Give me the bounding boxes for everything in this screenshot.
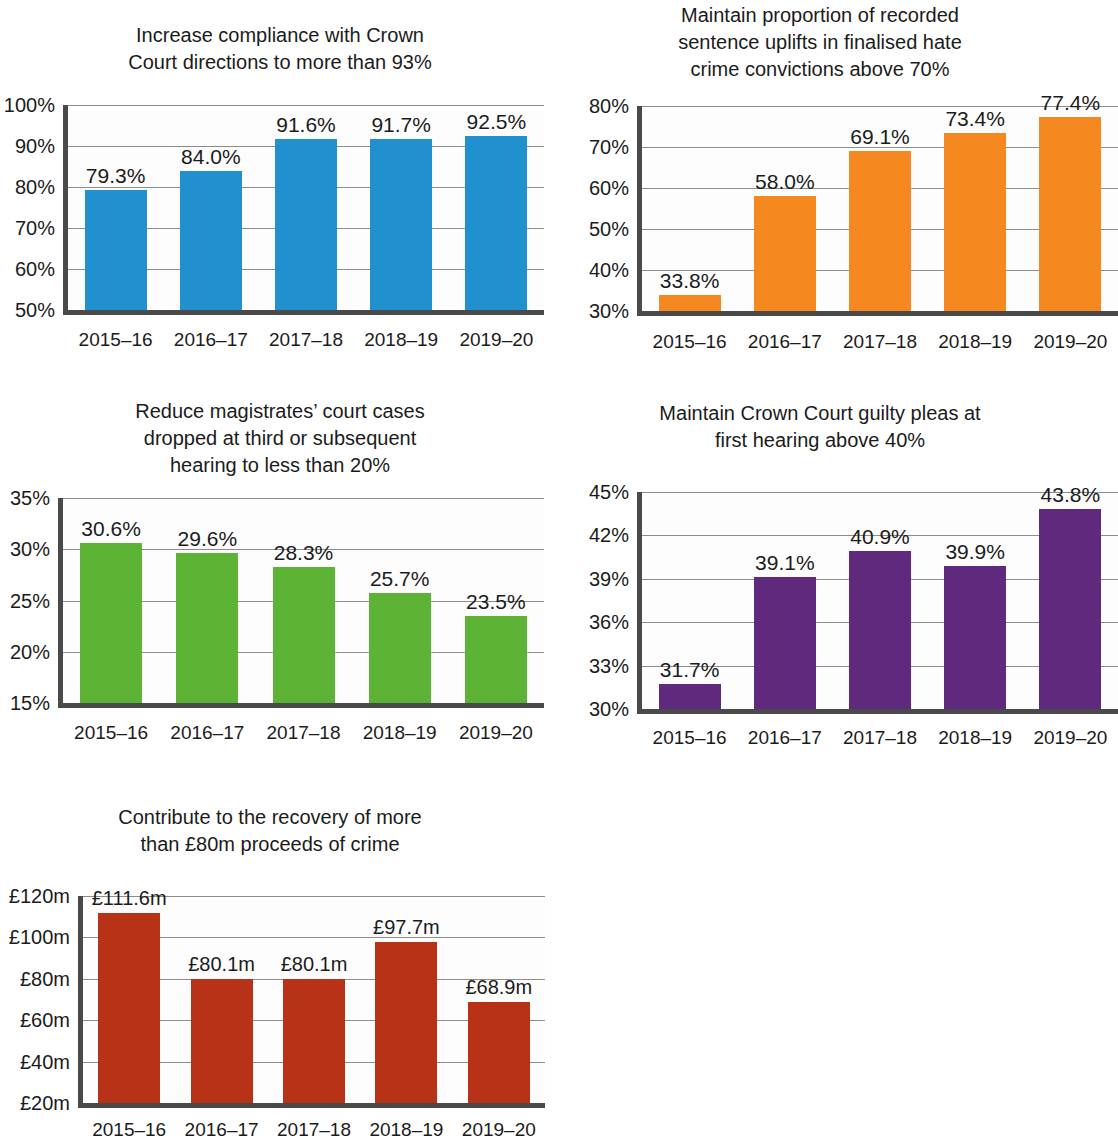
y-axis-tick-label: £100m xyxy=(0,927,70,947)
x-axis-tick-label: 2018–19 xyxy=(938,728,1012,747)
bar xyxy=(180,171,242,310)
gridline xyxy=(642,106,1118,107)
bar xyxy=(85,190,147,310)
bar-value-label: 25.7% xyxy=(370,568,430,589)
bar xyxy=(659,295,721,311)
plot-area xyxy=(637,106,1118,316)
y-axis-tick-label: £60m xyxy=(0,1010,70,1030)
x-axis-tick-label: 2016–17 xyxy=(748,332,822,351)
y-axis-tick-label: 30% xyxy=(0,539,50,559)
bar-value-label: 91.6% xyxy=(276,114,336,135)
y-axis-tick-label: 45% xyxy=(0,482,629,502)
gridline xyxy=(642,229,1118,230)
bar xyxy=(176,553,238,703)
bar xyxy=(275,139,337,310)
x-axis-tick-label: 2015–16 xyxy=(653,728,727,747)
x-axis-tick-label: 2017–18 xyxy=(277,1120,351,1139)
bar-value-label: 31.7% xyxy=(660,659,720,680)
gridline xyxy=(642,666,1118,667)
y-axis-tick-label: 15% xyxy=(0,693,50,713)
bar-value-label: 43.8% xyxy=(1041,484,1101,505)
y-axis-tick-label: 60% xyxy=(0,259,55,279)
gridline xyxy=(642,622,1118,623)
x-axis-tick-label: 2016–17 xyxy=(748,728,822,747)
bar-value-label: 79.3% xyxy=(86,165,146,186)
bar xyxy=(849,151,911,311)
y-axis-tick-label: 30% xyxy=(0,301,629,321)
gridline xyxy=(83,1062,545,1063)
bar xyxy=(1039,117,1101,311)
gridline xyxy=(63,549,544,550)
bar xyxy=(465,136,527,310)
y-axis-tick-label: 50% xyxy=(0,219,629,239)
gridline xyxy=(642,492,1118,493)
gridline xyxy=(642,579,1118,580)
x-axis-tick-label: 2019–20 xyxy=(1033,728,1107,747)
chart-title: Increase compliance with Crown Court dir… xyxy=(20,22,540,76)
bar-value-label: £97.7m xyxy=(373,917,440,938)
y-axis-tick-label: 36% xyxy=(0,612,629,632)
gridline xyxy=(642,270,1118,271)
bar-value-label: 73.4% xyxy=(945,108,1005,129)
y-axis-tick-label: £120m xyxy=(0,886,70,906)
chart-title: Reduce magistrates’ court cases dropped … xyxy=(20,398,540,479)
plot-area xyxy=(637,492,1118,714)
plot-area xyxy=(63,105,544,315)
x-axis-tick-label: 2016–17 xyxy=(174,330,248,349)
bar-value-label: 69.1% xyxy=(850,126,910,147)
bar xyxy=(1039,509,1101,709)
chart-title: Maintain Crown Court guilty pleas at fir… xyxy=(560,400,1080,454)
bar-value-label: 58.0% xyxy=(755,171,815,192)
bar xyxy=(849,551,911,709)
y-axis-tick-label: 70% xyxy=(0,137,629,157)
y-axis-tick-label: 42% xyxy=(0,525,629,545)
y-axis-tick-label: 50% xyxy=(0,300,55,320)
x-axis-tick-label: 2019–20 xyxy=(459,330,533,349)
y-axis-tick-label: 60% xyxy=(0,178,629,198)
y-axis-tick-label: 80% xyxy=(0,96,629,116)
x-axis-tick-label: 2018–19 xyxy=(938,332,1012,351)
bar-value-label: 92.5% xyxy=(467,111,527,132)
gridline xyxy=(68,146,544,147)
bar-value-label: 33.8% xyxy=(660,270,720,291)
x-axis-tick-label: 2017–18 xyxy=(843,728,917,747)
gridline xyxy=(68,228,544,229)
bar-value-label: 40.9% xyxy=(850,526,910,547)
y-axis-tick-label: £80m xyxy=(0,969,70,989)
bar xyxy=(369,593,431,703)
bar-value-label: £80.1m xyxy=(188,954,255,975)
x-axis-tick-label: 2019–20 xyxy=(459,723,533,742)
bar-value-label: £111.6m xyxy=(92,888,167,909)
y-axis-tick-label: 30% xyxy=(0,699,629,719)
gridline xyxy=(83,979,545,980)
x-axis-tick-label: 2016–17 xyxy=(170,723,244,742)
x-axis-tick-label: 2017–18 xyxy=(843,332,917,351)
y-axis-tick-label: 100% xyxy=(0,95,55,115)
bar-value-label: 30.6% xyxy=(81,518,141,539)
plot-area xyxy=(78,896,545,1108)
bar-value-label: £80.1m xyxy=(281,954,348,975)
bar xyxy=(944,133,1006,311)
y-axis-tick-label: £20m xyxy=(0,1093,70,1113)
gridline xyxy=(63,652,544,653)
bar-value-label: 39.9% xyxy=(945,541,1005,562)
y-axis-tick-label: 25% xyxy=(0,591,50,611)
chart-title: Maintain proportion of recorded sentence… xyxy=(560,2,1080,83)
x-axis-tick-label: 2015–16 xyxy=(79,330,153,349)
bar xyxy=(191,979,253,1103)
bar-value-label: 28.3% xyxy=(274,542,334,563)
x-axis-tick-label: 2019–20 xyxy=(462,1120,536,1139)
y-axis-tick-label: 39% xyxy=(0,569,629,589)
gridline xyxy=(63,601,544,602)
x-axis-tick-label: 2019–20 xyxy=(1033,332,1107,351)
bar-value-label: 29.6% xyxy=(178,528,238,549)
bar xyxy=(98,913,160,1103)
bar-value-label: 91.7% xyxy=(371,114,431,135)
bar xyxy=(283,979,345,1103)
y-axis-tick-label: 33% xyxy=(0,656,629,676)
gridline xyxy=(83,937,545,938)
